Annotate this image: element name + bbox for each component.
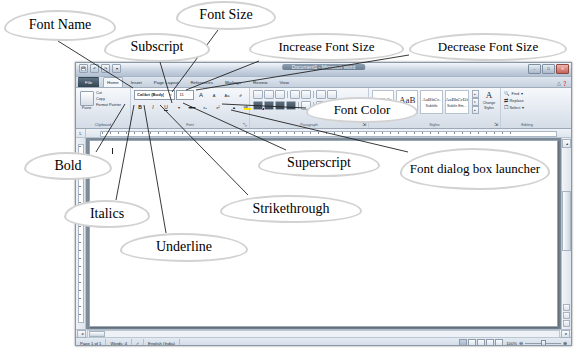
change-case-button[interactable]: Aa: [221, 90, 233, 100]
vertical-scroll-thumb[interactable]: [562, 191, 571, 251]
horizontal-scroll-thumb[interactable]: [89, 331, 105, 337]
font-dialog-box-launcher-icon[interactable]: ⤡: [242, 122, 248, 128]
tab-selector-button[interactable]: L: [76, 129, 86, 137]
full-screen-reading-view-icon[interactable]: [468, 339, 476, 346]
bold-button[interactable]: B: [134, 102, 146, 112]
outline-view-icon[interactable]: [486, 339, 494, 346]
zoom-slider-thumb[interactable]: [541, 340, 546, 346]
chevron-up-icon[interactable]: ▴: [472, 90, 479, 98]
next-page-icon[interactable]: [563, 320, 570, 327]
select-button[interactable]: ☐ Select ▾: [504, 104, 550, 111]
scroll-up-arrow-icon[interactable]: ▴: [562, 139, 571, 148]
font-name-combobox[interactable]: Calibri (Body) ▾: [134, 90, 175, 100]
select-browse-object-icon[interactable]: [563, 312, 570, 319]
ruler-tick: [350, 132, 351, 134]
callout-decrease-font: Decrease Font Size: [409, 33, 567, 61]
status-page-number[interactable]: Page 1 of 1: [76, 339, 106, 347]
shrink-font-button[interactable]: A: [208, 90, 220, 100]
subscript-button[interactable]: x₂: [199, 102, 211, 112]
minimize-button[interactable]: ‒: [528, 64, 541, 74]
chevron-down-icon[interactable]: ▾: [521, 90, 523, 97]
change-styles-button[interactable]: A Change Styles: [481, 90, 497, 110]
chevron-down-icon[interactable]: ▾: [170, 91, 172, 99]
chevron-down-icon[interactable]: ▾: [173, 102, 185, 112]
align-right-icon[interactable]: [275, 101, 285, 110]
horizontal-ruler[interactable]: L: [76, 129, 571, 138]
ruler-tick: [390, 132, 391, 134]
zoom-in-icon[interactable]: ⊕: [563, 340, 567, 346]
style-gallery-item[interactable]: AaBbCcDi Subtle Em...: [445, 90, 469, 114]
callout-label: Subscript: [131, 40, 184, 55]
zoom-level-label[interactable]: 100%: [506, 341, 517, 346]
web-layout-view-icon[interactable]: [477, 339, 485, 346]
zoom-slider[interactable]: [525, 340, 561, 346]
vertical-scrollbar[interactable]: ▴: [561, 138, 571, 329]
ribbon-help-icons[interactable]: △ ❓: [557, 81, 568, 86]
callout-font-dialog: Font dialog box launcher: [400, 148, 550, 190]
decrease-indent-icon[interactable]: [290, 90, 300, 99]
strikethrough-button[interactable]: abe: [186, 102, 198, 112]
underline-button[interactable]: U: [160, 102, 172, 112]
italic-button[interactable]: I: [147, 102, 159, 112]
style-gallery-scroll[interactable]: ▴ ▾ ▴: [472, 90, 479, 114]
styles-dialog-box-launcher-icon[interactable]: ⇲: [493, 122, 499, 128]
align-left-icon[interactable]: [253, 101, 263, 110]
scroll-right-arrow-icon[interactable]: ▸: [561, 330, 570, 338]
copy-button[interactable]: Copy: [96, 97, 121, 102]
status-word-count[interactable]: Words: 4: [106, 339, 132, 347]
zoom-controls[interactable]: 100% ⊖ ⊕: [506, 340, 571, 346]
tab-mailings[interactable]: Mailings: [221, 77, 245, 87]
scroll-left-arrow-icon[interactable]: ◂: [77, 330, 86, 338]
tab-view[interactable]: View: [275, 77, 292, 87]
tab-review[interactable]: Review: [249, 77, 271, 87]
customize-qat-icon[interactable]: ▾: [112, 64, 121, 73]
bulleted-list-icon[interactable]: [253, 90, 263, 99]
font-size-combobox[interactable]: 11: [176, 90, 194, 100]
align-center-icon[interactable]: [264, 101, 274, 110]
browse-object-buttons[interactable]: [563, 304, 570, 329]
previous-page-icon[interactable]: [563, 304, 570, 311]
cut-button[interactable]: Cut: [96, 91, 121, 96]
text-caret: [112, 148, 113, 154]
superscript-button[interactable]: x²: [212, 102, 224, 112]
redo-icon[interactable]: ↷: [101, 64, 110, 73]
quick-access-toolbar[interactable]: 💾 ↶ ↷ ▾: [79, 64, 121, 73]
chevron-down-icon[interactable]: ▾: [472, 98, 479, 106]
draft-view-icon[interactable]: [495, 339, 503, 346]
text-effects-button[interactable]: ▲: [228, 102, 240, 112]
clear-formatting-button[interactable]: ✐: [234, 90, 246, 100]
ribbon-tab-strip[interactable]: File Home Insert Page Layout References …: [76, 77, 571, 88]
tab-insert[interactable]: Insert: [127, 77, 146, 87]
close-button[interactable]: ✕: [556, 64, 569, 74]
horizontal-scrollbar[interactable]: ◂ ▸: [76, 329, 571, 337]
tab-home[interactable]: Home: [103, 77, 123, 87]
grow-font-button[interactable]: A: [195, 90, 207, 100]
horizontal-scroll-track[interactable]: [87, 330, 560, 338]
restore-button[interactable]: □: [542, 64, 555, 74]
status-language[interactable]: English (India): [144, 339, 180, 347]
numbered-list-icon[interactable]: [264, 90, 274, 99]
find-button[interactable]: 🔍 Find ▾: [504, 90, 550, 97]
sort-icon[interactable]: [316, 90, 326, 99]
format-painter-button[interactable]: Format Painter: [96, 103, 121, 108]
style-gallery-item[interactable]: AaBbCc. Subtitle: [420, 90, 442, 114]
zoom-out-icon[interactable]: ⊖: [519, 340, 523, 346]
undo-icon[interactable]: ↶: [90, 64, 99, 73]
window-controls[interactable]: ‒ □ ✕: [528, 64, 569, 74]
print-layout-view-icon[interactable]: [459, 339, 467, 346]
view-buttons[interactable]: [459, 339, 506, 346]
paste-button[interactable]: Paste: [79, 90, 94, 111]
chevron-down-icon[interactable]: ▾: [522, 104, 524, 111]
increase-indent-icon[interactable]: [301, 90, 311, 99]
more-styles-icon[interactable]: ▴: [472, 106, 479, 114]
tab-references[interactable]: References: [186, 77, 216, 87]
style-sample: AaBbCc.: [422, 96, 440, 104]
tab-file[interactable]: File: [78, 77, 99, 87]
proofing-errors-icon[interactable]: ✓: [132, 339, 144, 347]
justify-icon[interactable]: [286, 101, 296, 110]
tab-page-layout[interactable]: Page Layout: [150, 77, 183, 87]
save-icon[interactable]: 💾: [79, 64, 88, 73]
multilevel-list-icon[interactable]: [275, 90, 285, 99]
replace-button[interactable]: ⇄ Replace: [504, 97, 550, 104]
ruler-tick: [79, 306, 81, 307]
